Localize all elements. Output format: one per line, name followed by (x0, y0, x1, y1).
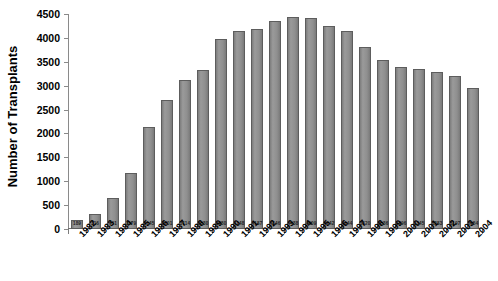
bars-layer: 1893166511179214527013114333039804148418… (68, 14, 482, 229)
bar-1989: 3330 (197, 14, 210, 229)
bar-rect: 3536 (377, 60, 390, 229)
bar-rect: 2701 (161, 100, 174, 229)
bar-1997: 4144 (341, 14, 354, 229)
bar-1990: 3980 (215, 14, 228, 229)
bar-rect: 3396 (395, 67, 408, 229)
bar-rect: 4187 (251, 29, 264, 229)
y-axis-title: Number of Transplants (0, 0, 26, 232)
bar-1987: 2701 (161, 14, 174, 229)
y-axis-title-label: Number of Transplants (6, 45, 21, 187)
bar-2003: 3197 (449, 14, 462, 229)
y-tickmark (64, 133, 69, 134)
y-axis-tick-4500: 4500 (37, 8, 60, 20)
y-axis-tick-500: 500 (42, 199, 60, 211)
bar-rect: 3820 (359, 47, 372, 230)
bar-1992: 4187 (251, 14, 264, 229)
bar-1993: 4346 (269, 14, 282, 229)
y-axis-tick-2500: 2500 (37, 104, 60, 116)
y-axis-tick-4000: 4000 (37, 32, 60, 44)
bar-1998: 3820 (359, 14, 372, 229)
y-axis-tick-0: 0 (54, 223, 60, 235)
y-axis-tick-3000: 3000 (37, 80, 60, 92)
bar-rect: 3283 (431, 72, 444, 229)
bar-rect: 2145 (143, 127, 156, 229)
bar-rect: 4144 (341, 31, 354, 229)
bar-rect: 2954 (467, 88, 480, 229)
bar-1984: 651 (107, 14, 120, 229)
y-tickmark (64, 205, 69, 206)
bar-rect: 3197 (449, 76, 462, 229)
bar-rect: 3345 (413, 69, 426, 229)
y-axis-tick-1000: 1000 (37, 175, 60, 187)
bar-chart: Number of Transplants 450040003500300025… (0, 0, 498, 281)
bar-2001: 3345 (413, 14, 426, 229)
bar-1995: 4409 (305, 14, 318, 229)
bar-1988: 3114 (179, 14, 192, 229)
bar-2000: 3396 (395, 14, 408, 229)
bar-1996: 4242 (323, 14, 336, 229)
bar-2002: 3283 (431, 14, 444, 229)
bar-1982: 189 (71, 14, 84, 229)
bar-1994: 4438 (287, 14, 300, 229)
bar-1991: 4148 (233, 14, 246, 229)
bar-1999: 3536 (377, 14, 390, 229)
y-axis-tick-3500: 3500 (37, 56, 60, 68)
bar-1983: 316 (89, 14, 102, 229)
bar-rect: 4148 (233, 31, 246, 229)
bar-rect: 3980 (215, 39, 228, 229)
bar-1985: 1179 (125, 14, 138, 229)
bar-rect: 3330 (197, 70, 210, 229)
bar-2004: 2954 (467, 14, 480, 229)
y-axis-tick-2000: 2000 (37, 127, 60, 139)
y-tickmark (64, 157, 69, 158)
bar-rect: 4242 (323, 26, 336, 229)
y-axis-tick-labels: 450040003500300025002000150010005000 (24, 14, 64, 229)
bar-rect: 3114 (179, 80, 192, 229)
bar-value-label: 189 (73, 221, 81, 226)
y-tickmark (64, 62, 69, 63)
x-axis-tick-labels: 1982198319841985198619871988198919901991… (68, 232, 482, 281)
plot-area: 1893166511179214527013114333039804148418… (68, 14, 482, 229)
y-tickmark (64, 14, 69, 15)
bar-rect: 4346 (269, 21, 282, 229)
y-tickmark (64, 181, 69, 182)
y-tickmark (64, 110, 69, 111)
bar-rect: 4438 (287, 17, 300, 229)
bar-1986: 2145 (143, 14, 156, 229)
y-tickmark (64, 38, 69, 39)
bar-rect: 4409 (305, 18, 318, 229)
y-axis-tick-1500: 1500 (37, 151, 60, 163)
y-tickmark (64, 86, 69, 87)
